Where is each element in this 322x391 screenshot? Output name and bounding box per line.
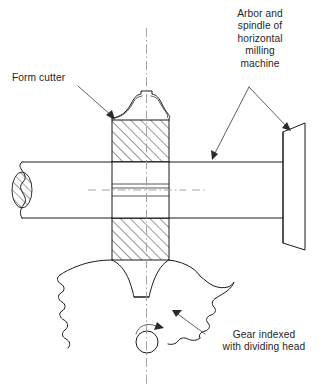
- cutter-lower-section: [112, 218, 169, 260]
- form-cutter-leader: [78, 86, 115, 120]
- form-cutter-leader-line: [78, 86, 113, 117]
- spindle-nose-body: [283, 123, 305, 250]
- cutter-upper-section: [112, 120, 169, 162]
- label-form-cutter: Form cutter: [12, 72, 98, 84]
- rotation-arrowhead: [154, 322, 164, 330]
- spindle-leader-line: [249, 87, 288, 128]
- gear-leader-line: [175, 312, 205, 334]
- gear-blank-top-left-arc: [60, 260, 112, 275]
- gear-blank-tooth-right: [200, 276, 234, 298]
- gear-indexed-leader: [172, 310, 205, 334]
- arbor-arrowhead: [211, 150, 218, 160]
- cutter-bottom-profile: [112, 260, 169, 297]
- label-arbor-and-spindle: Arbor and spindle of horizontal milling …: [206, 8, 314, 70]
- arbor-spindle-leader: [211, 87, 291, 160]
- spindle-nose: [283, 123, 305, 250]
- gear-blank-left-break: [57, 275, 69, 348]
- technical-diagram: Arbor and spindle of horizontal milling …: [0, 0, 322, 391]
- arbor-leader-line: [214, 87, 249, 155]
- gear-blank-top-right-arc: [169, 260, 200, 276]
- gear-blank-right-break-lower: [168, 338, 200, 344]
- form-cutter: [112, 91, 170, 297]
- label-gear-indexed: Gear indexed with dividing head: [206, 329, 322, 354]
- gear-center-hole: [136, 331, 158, 353]
